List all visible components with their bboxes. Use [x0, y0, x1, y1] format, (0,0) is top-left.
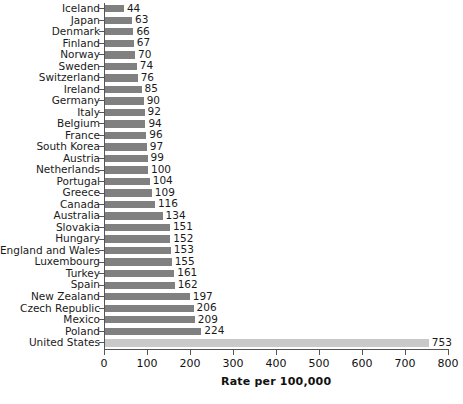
- bar: [105, 155, 148, 162]
- bar-row: Turkey161: [0, 268, 457, 280]
- bar-row: United States753: [0, 337, 457, 349]
- x-axis-tick-label: 400: [256, 357, 296, 370]
- y-axis-tick: [99, 342, 104, 343]
- x-axis-tick-label: 700: [385, 357, 425, 370]
- bar-value-label: 96: [149, 129, 162, 141]
- y-axis-tick: [99, 170, 104, 171]
- y-axis-tick: [99, 216, 104, 217]
- y-axis-tick: [99, 54, 104, 55]
- bar-value-label: 63: [135, 14, 148, 26]
- bar-row: Mexico209: [0, 314, 457, 326]
- x-axis-tick: [448, 350, 449, 355]
- category-label: Belgium: [0, 118, 100, 130]
- bar: [105, 17, 132, 24]
- y-axis-tick: [99, 89, 104, 90]
- bar: [105, 120, 145, 127]
- category-label: Switzerland: [0, 72, 100, 84]
- category-label: South Korea: [0, 141, 100, 153]
- bar-row: Denmark66: [0, 26, 457, 38]
- category-label: Germany: [0, 95, 100, 107]
- bar: [105, 109, 145, 116]
- bar-row: Germany90: [0, 95, 457, 107]
- x-axis-tick: [319, 350, 320, 355]
- y-axis-tick: [99, 285, 104, 286]
- bar-value-label: 224: [204, 325, 224, 337]
- bar: [105, 282, 175, 289]
- y-axis-tick: [99, 146, 104, 147]
- y-axis-tick: [99, 308, 104, 309]
- bar-row: New Zealand197: [0, 291, 457, 303]
- bar-value-label: 92: [148, 106, 161, 118]
- bar-value-label: 206: [197, 302, 217, 314]
- y-axis-tick: [99, 193, 104, 194]
- bar-value-label: 74: [140, 60, 153, 72]
- y-axis-tick: [99, 319, 104, 320]
- bar: [105, 5, 124, 12]
- bar: [105, 328, 201, 335]
- x-axis-tick-label: 100: [127, 357, 167, 370]
- y-axis-tick: [99, 262, 104, 263]
- category-label: Iceland: [0, 3, 100, 15]
- x-axis-tick-label: 200: [170, 357, 210, 370]
- y-axis-tick: [99, 227, 104, 228]
- y-axis-tick: [99, 296, 104, 297]
- bar: [105, 97, 144, 104]
- bar: [105, 40, 134, 47]
- x-axis-tick: [104, 350, 105, 355]
- y-axis-tick: [99, 239, 104, 240]
- bar: [105, 293, 190, 300]
- y-axis-tick: [99, 123, 104, 124]
- bar: [105, 224, 170, 231]
- y-axis-tick: [99, 20, 104, 21]
- bar-row: Iceland44: [0, 3, 457, 15]
- x-axis-tick: [190, 350, 191, 355]
- bar: [105, 28, 133, 35]
- bar: [105, 189, 152, 196]
- y-axis-tick: [99, 112, 104, 113]
- category-label: Mexico: [0, 314, 100, 326]
- bar-row: Belgium94: [0, 118, 457, 130]
- bar: [105, 132, 146, 139]
- x-axis-tick-label: 500: [299, 357, 339, 370]
- y-axis-tick: [99, 250, 104, 251]
- x-axis-tick-label: 600: [342, 357, 382, 370]
- bar-row: Norway70: [0, 49, 457, 61]
- category-label: New Zealand: [0, 291, 100, 303]
- category-label: Denmark: [0, 26, 100, 38]
- y-axis-tick: [99, 204, 104, 205]
- bar-value-label: 162: [178, 279, 198, 291]
- bar-value-label: 85: [145, 83, 158, 95]
- bar-row: Switzerland76: [0, 72, 457, 84]
- bar: [105, 212, 163, 219]
- y-axis-tick: [99, 77, 104, 78]
- x-axis-tick: [405, 350, 406, 355]
- x-axis-tick: [276, 350, 277, 355]
- bar: [105, 74, 138, 81]
- y-axis-tick: [99, 100, 104, 101]
- x-axis-title: Rate per 100,000: [221, 375, 331, 388]
- bar-value-label: 67: [137, 37, 150, 49]
- bar: [105, 63, 137, 70]
- x-axis-tick-label: 300: [213, 357, 253, 370]
- category-label: Norway: [0, 49, 100, 61]
- y-axis-tick: [99, 273, 104, 274]
- bar: [105, 166, 148, 173]
- bar: [105, 143, 147, 150]
- bar: [105, 201, 155, 208]
- bar: [105, 316, 195, 323]
- bar-highlighted: [105, 339, 429, 346]
- x-axis-tick-label: 0: [84, 357, 124, 370]
- y-axis-tick: [99, 181, 104, 182]
- y-axis-tick: [99, 31, 104, 32]
- y-axis-tick: [99, 66, 104, 67]
- bar: [105, 258, 172, 265]
- bar: [105, 270, 174, 277]
- bar: [105, 247, 171, 254]
- y-axis-tick: [99, 8, 104, 9]
- bar-row: South Korea97: [0, 141, 457, 153]
- x-axis-tick: [233, 350, 234, 355]
- bar: [105, 305, 194, 312]
- bar: [105, 51, 135, 58]
- y-axis-tick: [99, 135, 104, 136]
